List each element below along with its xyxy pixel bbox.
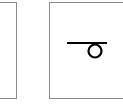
left-panel <box>0 2 17 99</box>
line-loop-icon <box>50 3 123 100</box>
right-panel <box>49 2 123 99</box>
